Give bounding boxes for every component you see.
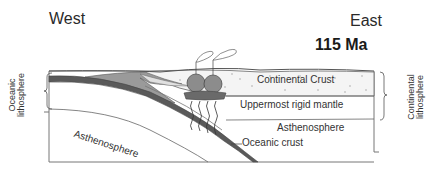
rigid-mantle-base <box>226 119 374 120</box>
uppermost-rigid-mantle-label: Uppermost rigid mantle <box>240 99 343 110</box>
continental-lithosphere-brace <box>380 72 387 120</box>
continental-crust-label: Continental Crust <box>257 74 334 85</box>
continental-lithosphere-line2: lithosphere <box>416 69 425 125</box>
oceanic-lithosphere-label: Oceanic lithosphere <box>8 70 26 120</box>
oceanic-lithosphere-line2: lithosphere <box>17 70 26 120</box>
age-label: 115 Ma <box>315 36 367 54</box>
east-label: East <box>350 12 382 30</box>
asthenosphere-right-label: Asthenosphere <box>277 122 344 133</box>
continental-lithosphere-label: Continental lithosphere <box>407 69 425 125</box>
west-label: West <box>49 10 85 28</box>
oceanic-crust-label: Oceanic crust <box>242 137 303 148</box>
